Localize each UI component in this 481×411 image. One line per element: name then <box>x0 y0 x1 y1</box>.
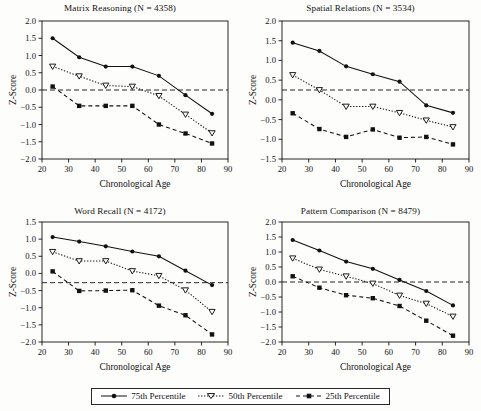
svg-text:70: 70 <box>171 164 180 174</box>
svg-text:0.5: 0.5 <box>265 262 276 272</box>
panel-matrix-reasoning: Matrix Reasoning (N = 4358) 203040506070… <box>0 0 240 203</box>
svg-text:50: 50 <box>117 347 126 357</box>
legend-label: 25th Percentile <box>326 392 380 401</box>
svg-text:−1.5: −1.5 <box>20 137 36 147</box>
svg-text:−0.5: −0.5 <box>20 286 36 296</box>
svg-text:Chronological Age: Chronological Age <box>99 179 170 189</box>
svg-text:90: 90 <box>224 164 233 174</box>
svg-text:0.0: 0.0 <box>265 277 276 287</box>
svg-text:50: 50 <box>358 347 367 357</box>
svg-text:30: 30 <box>64 347 73 357</box>
svg-text:40: 40 <box>91 347 100 357</box>
plot-area: 2030405060708090−2.0−1.5−1.0−0.50.00.51.… <box>0 203 240 382</box>
svg-text:−1.0: −1.0 <box>20 120 36 130</box>
plot-area: 2030405060708090−1.5−1.0−0.50.00.51.01.5… <box>240 0 481 203</box>
svg-text:70: 70 <box>411 347 420 357</box>
svg-text:50: 50 <box>117 164 126 174</box>
legend-label: 50th Percentile <box>228 392 282 401</box>
svg-text:1.0: 1.0 <box>25 234 36 244</box>
svg-text:0.0: 0.0 <box>25 85 36 95</box>
svg-text:−1.0: −1.0 <box>260 307 276 317</box>
panel-spatial-relations: Spatial Relations (N = 3534) 20304050607… <box>240 0 481 203</box>
svg-text:Z-Score: Z-Score <box>8 75 18 105</box>
svg-text:70: 70 <box>411 164 420 174</box>
panel-pattern-comparison: Pattern Comparison (N = 8479) 2030405060… <box>240 203 481 382</box>
svg-text:−1.0: −1.0 <box>260 134 276 144</box>
svg-text:60: 60 <box>144 164 153 174</box>
svg-text:0.5: 0.5 <box>25 251 36 261</box>
svg-text:50: 50 <box>358 164 367 174</box>
svg-text:Chronological Age: Chronological Age <box>340 179 411 189</box>
svg-text:90: 90 <box>465 347 474 357</box>
svg-text:80: 80 <box>438 164 447 174</box>
svg-text:80: 80 <box>438 347 447 357</box>
svg-text:20: 20 <box>38 347 47 357</box>
svg-text:40: 40 <box>331 164 340 174</box>
panel-grid: Matrix Reasoning (N = 4358) 203040506070… <box>0 0 481 382</box>
svg-text:−1.5: −1.5 <box>260 154 276 164</box>
plot-area: 2030405060708090−2.0−1.5−1.0−0.50.00.51.… <box>0 0 240 203</box>
svg-text:0.5: 0.5 <box>25 68 36 78</box>
svg-text:−1.5: −1.5 <box>260 322 276 332</box>
svg-text:80: 80 <box>197 347 206 357</box>
svg-text:Z-Score: Z-Score <box>8 267 18 297</box>
svg-text:70: 70 <box>171 347 180 357</box>
svg-text:60: 60 <box>144 347 153 357</box>
svg-text:−2.0: −2.0 <box>20 154 36 164</box>
svg-text:−2.0: −2.0 <box>260 337 276 347</box>
svg-text:1.0: 1.0 <box>265 247 276 257</box>
plot-area: 2030405060708090−2.0−1.5−1.0−0.50.00.51.… <box>240 203 481 382</box>
svg-text:2.0: 2.0 <box>25 16 36 26</box>
svg-text:Chronological Age: Chronological Age <box>340 362 411 372</box>
svg-text:80: 80 <box>197 164 206 174</box>
svg-text:40: 40 <box>331 347 340 357</box>
legend: 75th Percentile 50th Percentile 25th Per… <box>0 382 481 411</box>
svg-text:Chronological Age: Chronological Age <box>99 362 170 372</box>
svg-text:40: 40 <box>91 164 100 174</box>
svg-text:1.5: 1.5 <box>25 33 36 43</box>
panel-word-recall: Word Recall (N = 4172) 2030405060708090−… <box>0 203 240 382</box>
legend-item-25th: 25th Percentile <box>296 391 380 401</box>
svg-text:0.0: 0.0 <box>265 95 276 105</box>
svg-text:Z-Score: Z-Score <box>248 267 258 297</box>
legend-item-50th: 50th Percentile <box>198 391 282 401</box>
svg-text:90: 90 <box>465 164 474 174</box>
svg-text:1.0: 1.0 <box>265 55 276 65</box>
svg-text:1.0: 1.0 <box>25 51 36 61</box>
svg-text:0.5: 0.5 <box>265 75 276 85</box>
svg-text:60: 60 <box>385 164 394 174</box>
legend-label: 75th Percentile <box>131 392 185 401</box>
svg-text:1.5: 1.5 <box>265 232 276 242</box>
figure-container: Matrix Reasoning (N = 4358) 203040506070… <box>0 0 481 411</box>
svg-text:20: 20 <box>278 164 287 174</box>
svg-text:−0.5: −0.5 <box>20 102 36 112</box>
svg-text:30: 30 <box>64 164 73 174</box>
svg-text:60: 60 <box>385 347 394 357</box>
svg-text:90: 90 <box>224 347 233 357</box>
filled-circle-marker <box>101 391 127 401</box>
svg-text:1.5: 1.5 <box>25 217 36 227</box>
svg-text:−2.0: −2.0 <box>20 337 36 347</box>
filled-square-marker <box>296 391 322 401</box>
svg-text:−1.5: −1.5 <box>20 320 36 330</box>
legend-box: 75th Percentile 50th Percentile 25th Per… <box>91 388 390 405</box>
legend-item-75th: 75th Percentile <box>101 391 185 401</box>
svg-text:−1.0: −1.0 <box>20 303 36 313</box>
svg-text:30: 30 <box>304 164 313 174</box>
svg-text:0.0: 0.0 <box>25 268 36 278</box>
svg-text:20: 20 <box>278 347 287 357</box>
svg-text:2.0: 2.0 <box>265 217 276 227</box>
open-triangle-down-marker <box>198 391 224 401</box>
svg-text:30: 30 <box>304 347 313 357</box>
svg-text:−0.5: −0.5 <box>260 115 276 125</box>
svg-text:20: 20 <box>38 164 47 174</box>
svg-text:1.5: 1.5 <box>265 36 276 46</box>
svg-text:Z-Score: Z-Score <box>248 75 258 105</box>
svg-text:−0.5: −0.5 <box>260 292 276 302</box>
svg-text:2.0: 2.0 <box>265 16 276 26</box>
